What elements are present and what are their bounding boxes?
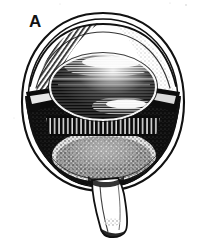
eye-anatomy-figure: A (0, 0, 206, 242)
panel-label: A (29, 13, 41, 30)
eye-diagram (0, 0, 206, 242)
